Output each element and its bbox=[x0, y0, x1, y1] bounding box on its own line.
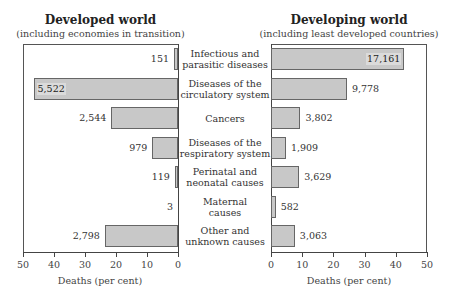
left-bar bbox=[111, 107, 178, 129]
right-x-tick-label: 50 bbox=[417, 259, 437, 270]
right-chart-title: Developing world bbox=[271, 13, 427, 27]
category-label: Diseases of the circulatory system bbox=[178, 78, 272, 100]
right-bar bbox=[271, 225, 295, 247]
left-chart-subtitle: (including economies in transition) bbox=[13, 28, 188, 39]
right-bar-value: 3,802 bbox=[305, 112, 332, 124]
category-label: Diseases of the respiratory system bbox=[178, 137, 272, 159]
left-x-tick-label: 30 bbox=[75, 259, 95, 270]
left-x-tick-label: 0 bbox=[168, 259, 188, 270]
right-bar-value: 3,629 bbox=[304, 171, 331, 183]
left-chart-title: Developed world bbox=[23, 13, 178, 27]
left-bar bbox=[105, 225, 178, 247]
right-x-tick bbox=[427, 253, 428, 257]
left-bar-value: 151 bbox=[151, 53, 169, 65]
left-x-tick bbox=[116, 253, 117, 257]
left-bar-value: 119 bbox=[152, 171, 170, 183]
right-x-tick-label: 10 bbox=[292, 259, 312, 270]
left-bar-value: 979 bbox=[129, 142, 147, 154]
right-bar-value: 17,161 bbox=[366, 53, 401, 65]
right-x-tick bbox=[333, 253, 334, 257]
left-x-tick bbox=[85, 253, 86, 257]
right-x-tick bbox=[396, 253, 397, 257]
left-bar-value: 3 bbox=[167, 201, 173, 213]
category-label: Cancers bbox=[178, 113, 272, 124]
left-x-tick-label: 10 bbox=[137, 259, 157, 270]
right-x-tick bbox=[271, 253, 272, 257]
right-bar-value: 1,909 bbox=[291, 142, 318, 154]
left-x-axis-title: Deaths (per cent) bbox=[50, 275, 150, 286]
right-chart-subtitle: (including least developed countries) bbox=[256, 28, 442, 39]
right-bar bbox=[271, 166, 299, 188]
right-bar bbox=[271, 137, 286, 159]
right-x-axis-title: Deaths (per cent) bbox=[299, 275, 399, 286]
left-x-tick bbox=[23, 253, 24, 257]
right-x-tick-label: 30 bbox=[355, 259, 375, 270]
left-x-tick-label: 50 bbox=[13, 259, 33, 270]
left-bar-value: 2,544 bbox=[79, 112, 106, 124]
left-x-tick bbox=[54, 253, 55, 257]
right-bar bbox=[271, 107, 300, 129]
left-x-tick bbox=[178, 253, 179, 257]
left-x-tick-label: 40 bbox=[44, 259, 64, 270]
right-x-tick-label: 0 bbox=[261, 259, 281, 270]
category-label: Infectious and parasitic diseases bbox=[178, 48, 272, 70]
left-x-tick bbox=[147, 253, 148, 257]
left-bar-value: 2,798 bbox=[73, 230, 100, 242]
category-label: Perinatal and neonatal causes bbox=[178, 166, 272, 188]
right-x-tick-label: 40 bbox=[386, 259, 406, 270]
right-x-tick bbox=[302, 253, 303, 257]
right-bar bbox=[271, 78, 347, 100]
left-bar-value: 5,522 bbox=[37, 83, 66, 95]
right-bar-value: 582 bbox=[281, 201, 299, 213]
category-label: Other and unknown causes bbox=[178, 225, 272, 247]
right-x-tick bbox=[365, 253, 366, 257]
category-label: Maternal causes bbox=[178, 196, 272, 218]
right-bar-value: 3,063 bbox=[300, 230, 327, 242]
right-x-axis-line bbox=[271, 252, 428, 253]
left-x-axis-line bbox=[23, 252, 179, 253]
left-x-tick-label: 20 bbox=[106, 259, 126, 270]
left-bar bbox=[152, 137, 178, 159]
right-x-tick-label: 20 bbox=[323, 259, 343, 270]
right-bar-value: 9,778 bbox=[352, 83, 379, 95]
